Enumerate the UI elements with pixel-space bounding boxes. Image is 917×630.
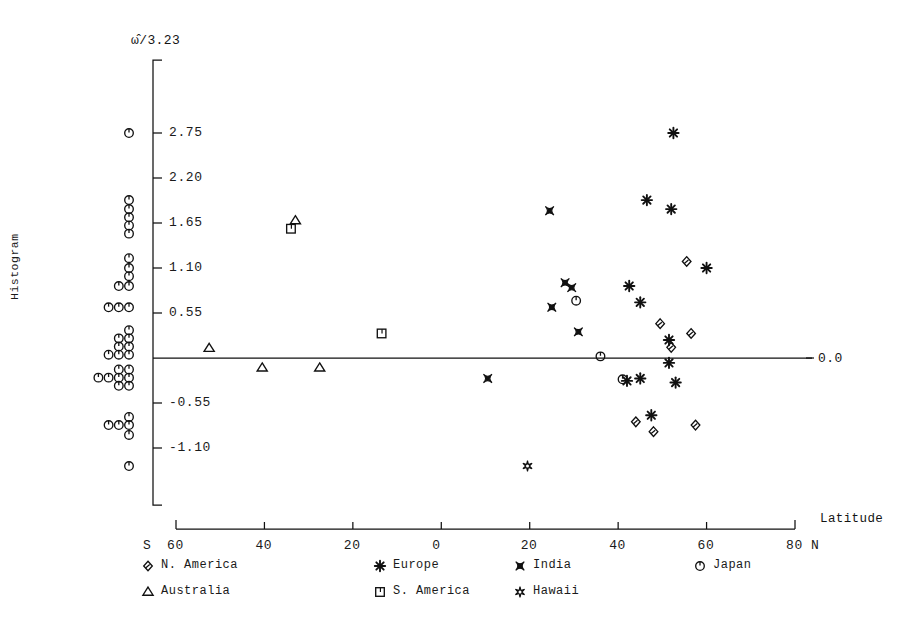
histogram-count-marker (125, 205, 134, 214)
histogram-count-marker (125, 342, 134, 351)
data-point-n_america (687, 329, 696, 339)
data-point-europe (664, 335, 674, 345)
data-point-hawaii (523, 461, 532, 472)
histogram-count-marker (115, 373, 124, 382)
data-point-europe (646, 410, 656, 420)
x-axis-south-label: S (143, 538, 151, 553)
histogram-count-marker (125, 365, 134, 374)
data-point-europe (635, 373, 645, 383)
data-point-s_america (287, 224, 296, 233)
histogram-count-marker (94, 373, 103, 382)
data-point-n_america (632, 417, 641, 427)
histogram-count-marker (125, 264, 134, 273)
histogram-count-marker (125, 254, 134, 263)
x-tick-label: 0 (432, 538, 440, 553)
data-point-australia (257, 363, 267, 371)
histogram-count-marker (115, 365, 124, 374)
data-point-india (574, 328, 583, 337)
y-tick-label: -0.55 (169, 395, 211, 410)
histogram-count-marker (125, 221, 134, 230)
y-tick-label: 2.20 (169, 170, 203, 185)
x-axis-north-label: N (811, 538, 819, 553)
histogram-count-marker (125, 350, 134, 359)
histogram-count-marker (125, 326, 134, 335)
data-point-n_america (649, 427, 658, 437)
x-tick-label: 60 (167, 538, 184, 553)
data-point-n_america (656, 319, 665, 329)
x-tick-label: 80 (786, 538, 803, 553)
data-point-europe (664, 358, 674, 368)
data-point-australia (204, 343, 214, 351)
histogram-count-marker (125, 282, 134, 291)
x-tick-label: 20 (521, 538, 538, 553)
y-tick-label: 1.10 (169, 260, 203, 275)
series-india (483, 206, 582, 382)
histogram-count-marker (125, 229, 134, 238)
series-japan (572, 296, 627, 383)
histogram-count-marker (125, 272, 134, 281)
histogram-count-marker (104, 373, 113, 382)
data-point-india (548, 303, 557, 312)
data-point-europe (624, 281, 634, 291)
series-europe (622, 128, 712, 421)
y-tick-label: -1.10 (169, 440, 211, 455)
x-tick-label: 20 (344, 538, 361, 553)
plot-canvas (0, 0, 917, 630)
histogram-marker-group (94, 129, 133, 471)
histogram-count-marker (125, 213, 134, 222)
histogram-count-marker (125, 303, 134, 312)
histogram-count-marker (115, 350, 124, 359)
series-s_america (287, 224, 386, 337)
histogram-count-marker (125, 462, 134, 471)
legend-label-australia: Australia (161, 584, 230, 598)
y-tick-label: 1.65 (169, 215, 203, 230)
legend-label-india: India (533, 558, 572, 572)
histogram-count-marker (125, 382, 134, 391)
y-tick-label: 0.55 (169, 305, 203, 320)
x-tick-label: 40 (609, 538, 626, 553)
data-point-india (545, 206, 554, 215)
series-n_america (632, 257, 700, 437)
series-australia (204, 216, 325, 371)
x-tick-label: 60 (698, 538, 715, 553)
histogram-count-marker (104, 303, 113, 312)
histogram-count-marker (115, 303, 124, 312)
histogram-count-marker (125, 196, 134, 205)
scatter-plot-figure: Histogram ω̂/3.23 Latitude 0.0 2.752.201… (0, 0, 917, 630)
x-tick-label: 40 (255, 538, 272, 553)
data-point-australia (315, 363, 325, 371)
data-point-japan (596, 352, 605, 361)
data-point-japan (572, 296, 581, 305)
axes (153, 60, 814, 529)
histogram-count-marker (115, 382, 124, 391)
data-point-india (483, 374, 492, 383)
legend-label-n_america: N. America (161, 558, 238, 572)
histogram-count-marker (125, 373, 134, 382)
data-point-s_america (377, 329, 386, 338)
data-point-europe (670, 377, 680, 387)
series-hawaii (523, 461, 532, 472)
y-tick-label: 2.75 (169, 125, 203, 140)
histogram-count-marker (115, 342, 124, 351)
data-point-n_america (682, 257, 691, 267)
legend-label-japan: Japan (713, 558, 752, 572)
data-point-n_america (691, 420, 700, 430)
data-point-europe (635, 297, 645, 307)
histogram-count-marker (125, 431, 134, 440)
histogram-count-marker (115, 334, 124, 343)
data-point-europe (666, 204, 676, 214)
histogram-count-marker (104, 421, 113, 430)
histogram-count-marker (125, 421, 134, 430)
data-point-europe (701, 263, 711, 273)
data-point-india (561, 278, 570, 287)
histogram-count-marker (125, 334, 134, 343)
legend-label-hawaii: Hawaii (533, 584, 579, 598)
data-point-europe (668, 128, 678, 138)
data-point-india (567, 283, 576, 292)
data-point-europe (642, 195, 652, 205)
histogram-count-marker (115, 282, 124, 291)
legend-label-europe: Europe (393, 558, 439, 572)
legend-label-s_america: S. America (393, 584, 470, 598)
histogram-count-marker (125, 129, 134, 138)
histogram-count-marker (104, 350, 113, 359)
